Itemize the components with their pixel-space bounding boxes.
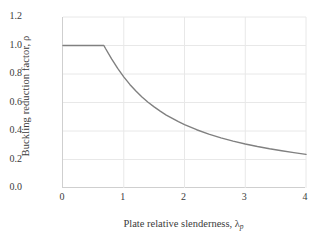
x-tick-label: 0 <box>52 191 72 202</box>
x-tick-label: 3 <box>234 191 254 202</box>
y-tick-label: 0.6 <box>0 96 22 107</box>
x-axis-label-subscript: p <box>240 222 244 231</box>
y-tick-label: 0.0 <box>0 181 22 192</box>
x-tick-label: 4 <box>295 191 315 202</box>
x-axis-label: Plate relative slenderness, λp <box>62 218 305 231</box>
y-tick-label: 1.2 <box>0 10 22 21</box>
y-tick-label: 1.0 <box>0 39 22 50</box>
x-axis-label-text: Plate relative slenderness, λ <box>123 218 239 229</box>
series-line-winter-curve <box>63 46 306 155</box>
chart-figure: Buckling reduction factor, ρ Plate relat… <box>0 0 331 246</box>
y-tick-label: 0.8 <box>0 67 22 78</box>
y-tick-label: 0.2 <box>0 153 22 164</box>
y-tick-label: 0.4 <box>0 124 22 135</box>
x-tick-label: 1 <box>113 191 133 202</box>
x-tick-label: 2 <box>174 191 194 202</box>
plot-area <box>62 17 305 188</box>
data-series-curve <box>63 17 306 188</box>
